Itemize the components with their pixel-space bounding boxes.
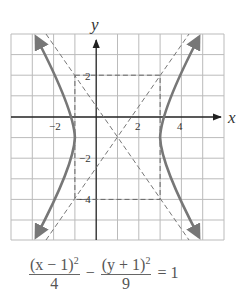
- y-tick-neg2: −2: [79, 152, 91, 164]
- right-exponent: 2: [145, 255, 150, 266]
- right-denominator: 9: [122, 275, 130, 293]
- y-tick-neg4: −4: [79, 193, 91, 205]
- x-axis-label: x: [227, 108, 236, 127]
- left-denominator: 4: [50, 275, 58, 293]
- left-fraction: (x − 1)2 4: [29, 252, 80, 293]
- right-fraction: (y + 1)2 9: [101, 252, 152, 293]
- y-axis-label: y: [89, 15, 99, 34]
- left-numerator: (x − 1): [30, 256, 74, 273]
- x-tick-2: 2: [135, 120, 141, 132]
- left-exponent: 2: [74, 255, 79, 266]
- hyperbola-graph: y x −2 2 4 2 −2 −4: [0, 0, 245, 250]
- x-tick-neg2: −2: [49, 120, 61, 132]
- minus-sign: −: [86, 264, 95, 282]
- hyperbola-equation: (x − 1)2 4 − (y + 1)2 9 = 1: [26, 252, 181, 293]
- equals-one: = 1: [157, 264, 178, 282]
- grid: [11, 34, 224, 240]
- x-tick-4: 4: [177, 120, 183, 132]
- right-numerator: (y + 1): [102, 256, 146, 273]
- y-tick-2: 2: [85, 70, 91, 82]
